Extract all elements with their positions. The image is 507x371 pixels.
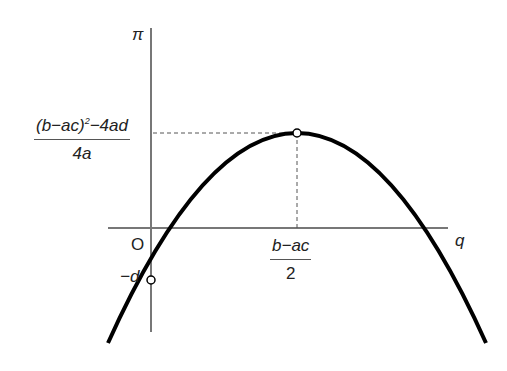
- vertex-x-denominator: 2: [270, 260, 311, 284]
- vertex-x-fraction: b−ac 2: [270, 236, 311, 284]
- vertex-y-numerator: (b−ac)2−4ad: [34, 116, 130, 140]
- x-axis-label: q: [455, 232, 464, 249]
- origin-label: O: [131, 236, 144, 253]
- vertex-point: [293, 129, 301, 137]
- vertex-y-fraction: (b−ac)2−4ad 4a: [34, 116, 130, 164]
- y-axis-label: π: [132, 26, 143, 43]
- intercept-label: −d: [120, 268, 139, 285]
- intercept-point: [147, 276, 155, 284]
- vertex-x-numerator: b−ac: [270, 236, 311, 260]
- diagram-canvas: [0, 0, 507, 371]
- vertex-y-denominator: 4a: [34, 140, 130, 164]
